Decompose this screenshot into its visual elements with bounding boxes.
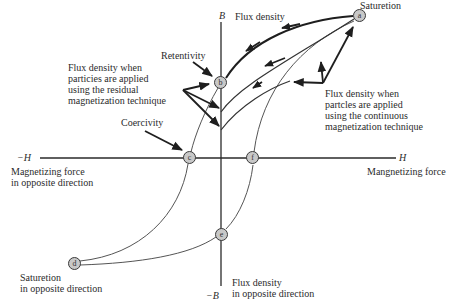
- curve-e-to-f: [226, 165, 253, 229]
- label-residual-technique: Flux density when particies are applied …: [68, 62, 166, 106]
- label-saturation-opposite: Saturetion in opposite direction: [20, 272, 102, 294]
- axis-h-label: Mangnetizing force: [367, 166, 446, 177]
- curve-d-to-e: [80, 237, 216, 265]
- label-retentivity: Retentivity: [161, 50, 205, 61]
- curve-c-to-d: [80, 164, 188, 261]
- hysteresis-curves: [80, 16, 354, 265]
- axis-neg-b-symbol: −B: [206, 290, 219, 301]
- curve-arrows: [246, 24, 300, 88]
- curve-continuous-2: [221, 81, 290, 130]
- axis-h-symbol: H: [399, 152, 406, 163]
- label-saturation: Saturetion: [360, 0, 401, 11]
- label-coercivity: Coercivity: [121, 117, 163, 128]
- axis-b-symbol: B: [219, 10, 225, 21]
- curve-f-to-a: [254, 21, 354, 152]
- axis-b-label: Flux density: [235, 11, 285, 22]
- axis-neg-h-symbol: −H: [17, 152, 31, 163]
- node-c-coercivity: c: [183, 151, 196, 164]
- node-e: e: [215, 228, 228, 241]
- axis-neg-h-label: Magnetizing force in opposite direction: [11, 166, 93, 188]
- node-d-saturation-opposite: d: [68, 257, 81, 270]
- axis-neg-b-label: Flux density in opposite direction: [232, 277, 314, 299]
- node-f: f: [246, 151, 259, 164]
- label-continuous-technique: Flux density when partcles are applied u…: [325, 88, 423, 132]
- node-b-retentivity: b: [214, 76, 227, 89]
- annotation-arrows: [145, 27, 353, 150]
